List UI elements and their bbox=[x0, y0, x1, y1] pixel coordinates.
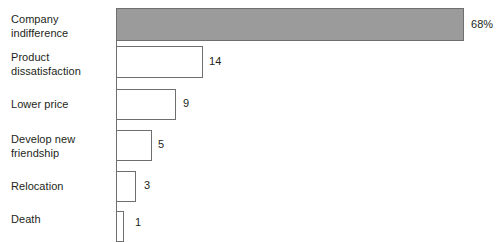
category-label-line: Develop new bbox=[11, 133, 75, 145]
category-axis-line bbox=[116, 8, 117, 242]
category-label-line: Company bbox=[11, 13, 58, 25]
category-label: Develop newfriendship bbox=[11, 133, 111, 160]
bar bbox=[116, 46, 203, 78]
category-label: Companyindifference bbox=[11, 13, 111, 40]
bar bbox=[116, 211, 124, 242]
category-label: Productdissatisfaction bbox=[11, 51, 111, 78]
bar-value-label: 1 bbox=[135, 216, 141, 229]
bar-value-label: 68% bbox=[471, 18, 493, 31]
category-label: Relocation bbox=[11, 180, 111, 194]
bar bbox=[116, 171, 136, 202]
category-label-line: friendship bbox=[11, 147, 59, 159]
bar-value-label: 9 bbox=[183, 97, 189, 110]
category-label-line: Product bbox=[11, 51, 49, 63]
bar bbox=[116, 89, 176, 120]
category-label: Death bbox=[11, 213, 111, 227]
category-label-line: Lower price bbox=[11, 98, 68, 110]
bar-value-label: 5 bbox=[158, 138, 164, 151]
category-label-line: Relocation bbox=[11, 180, 63, 192]
bar-value-label: 14 bbox=[209, 55, 221, 68]
category-label-line: Death bbox=[11, 213, 41, 225]
category-label-line: dissatisfaction bbox=[11, 65, 81, 77]
horizontal-bar-chart: Companyindifference68%Productdissatisfac… bbox=[0, 0, 502, 242]
bar bbox=[116, 130, 152, 161]
category-label: Lower price bbox=[11, 98, 111, 112]
bar bbox=[116, 8, 464, 41]
category-label-line: indifference bbox=[11, 27, 68, 39]
bar-value-label: 3 bbox=[144, 179, 150, 192]
